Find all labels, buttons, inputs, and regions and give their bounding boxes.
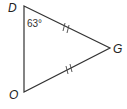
- angle-label-d: 63°: [27, 18, 42, 29]
- vertex-label-d: D: [8, 1, 17, 15]
- tick-marks-dg: [63, 23, 69, 33]
- triangle-diagram: D G O 63°: [0, 0, 127, 109]
- vertex-label-o: O: [9, 88, 18, 102]
- vertex-label-g: G: [113, 42, 122, 56]
